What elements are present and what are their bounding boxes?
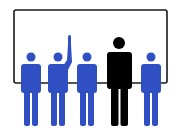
- people-board-illustration: [0, 0, 179, 133]
- person-icon-1: [21, 53, 41, 127]
- person-raising-hand-icon: [48, 35, 72, 126]
- person-icon-3: [77, 53, 97, 127]
- presenter-person-icon: [107, 37, 132, 126]
- person-icon-5: [141, 53, 161, 127]
